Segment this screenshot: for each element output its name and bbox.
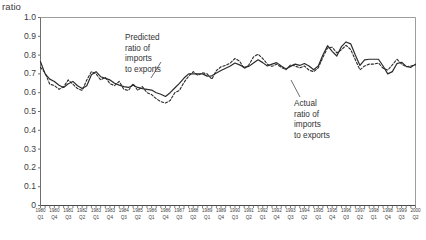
annotation-actual-label: Actual ratio of imports to exports [294,99,330,141]
annotation-leader-lines [151,62,300,97]
x-axis-tick-quarter: Q2 [403,215,426,222]
series-line-actual [41,42,416,97]
annotation-predicted-label: Predicted ratio of imports to exports [125,33,161,75]
leader-line-actual [291,80,300,97]
x-axis-tick-label: 2000Q2 [403,208,426,221]
x-axis-tick-year: 2000 [403,208,426,215]
series-line-predicted [41,45,416,103]
data-series-layer [41,42,416,103]
plot-area [0,0,426,240]
plot-frame [41,18,416,206]
x-axis-tick-labels: 1980Q11980Q41981Q31982Q21983Q11983Q41984… [0,208,426,234]
chart-figure: ratio 1.00.90.80.70.60.50.40.30.20.10 19… [0,0,426,240]
